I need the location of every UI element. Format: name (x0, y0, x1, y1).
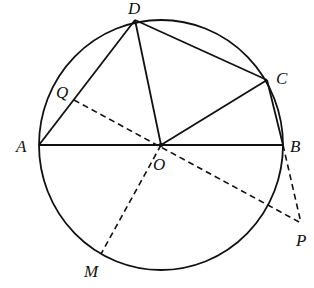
label-q: Q (56, 83, 68, 102)
segment-bp (283, 145, 301, 223)
label-c: C (276, 69, 288, 88)
center-dot-o (159, 143, 163, 147)
label-m: M (83, 262, 99, 281)
solid-segments (39, 20, 283, 145)
label-p: P (295, 231, 306, 250)
segment-qp (74, 100, 301, 223)
label-b: B (290, 137, 301, 156)
segment-om (101, 145, 161, 254)
segment-co (161, 80, 267, 145)
segment-dc (135, 20, 267, 80)
dashed-segments (74, 100, 301, 254)
label-a: A (15, 137, 27, 156)
segment-do (135, 20, 161, 145)
segment-cb (267, 80, 283, 145)
label-o: O (153, 155, 165, 174)
segment-ad (39, 20, 135, 145)
geometry-diagram: A B O D C Q P M (0, 0, 314, 288)
label-d: D (127, 0, 141, 18)
